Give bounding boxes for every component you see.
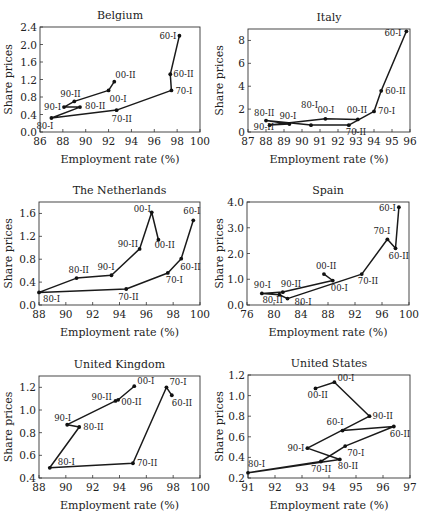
y-tick-label: 0 <box>238 126 245 138</box>
x-tick-label: 98 <box>170 135 183 147</box>
data-point-label: 00-II <box>347 105 367 115</box>
data-point-label: 70-I <box>166 275 183 285</box>
data-point-label: 80-II <box>254 108 274 118</box>
panel-italy: Italy Employment rate (%) Share prices 8… <box>211 0 422 172</box>
plot-frame <box>247 202 409 305</box>
data-point <box>107 89 111 93</box>
data-point <box>356 118 360 122</box>
data-point-label: 00-I <box>134 204 151 214</box>
chart-title: Spain <box>312 184 344 197</box>
chart-belgium: Belgium Employment rate (%) Share prices… <box>0 0 211 172</box>
data-point-label: 70-I <box>373 226 390 236</box>
y-tick-label: 0.0 <box>19 299 36 311</box>
data-point-label: 90-II <box>118 239 138 249</box>
data-point-label: 90-I <box>279 111 296 121</box>
y-tick-label: 1.0 <box>227 273 244 285</box>
panel-united-kingdom: United Kingdom Employment rate (%) Share… <box>0 343 211 515</box>
data-point-label: 00-II <box>154 240 174 250</box>
data-point-label: 00-I <box>110 94 127 104</box>
data-point <box>372 110 376 114</box>
data-point-label: 80-II <box>262 295 282 305</box>
data-point-label: 60-II <box>390 429 410 439</box>
x-tick-label: 98 <box>166 481 179 493</box>
x-tick-label: 80 <box>267 308 280 320</box>
data-point <box>110 273 114 277</box>
y-tick-label: 0.8 <box>20 91 37 103</box>
data-point <box>62 105 66 109</box>
x-axis-label: Employment rate (%) <box>60 326 179 339</box>
data-point <box>322 272 326 276</box>
data-point <box>48 466 52 470</box>
x-tick-label: 96 <box>376 481 390 493</box>
y-tick-label: 1.6 <box>19 207 36 219</box>
data-point-label: 70-II <box>118 292 138 302</box>
data-point-label: 70-I <box>169 377 186 387</box>
data-point <box>77 425 81 429</box>
x-tick-label: 93 <box>295 481 308 493</box>
data-point-label: 60-II <box>173 69 193 79</box>
x-tick-label: 88 <box>259 135 272 147</box>
plot-area: 868890929496981000.00.40.81.21.62.02.460… <box>20 21 210 147</box>
data-point-label: 00-I <box>331 283 348 293</box>
data-point <box>306 446 310 450</box>
y-axis-label: Share prices <box>2 391 15 462</box>
data-point <box>78 105 82 109</box>
chart-spain: Spain Employment rate (%) Share prices 7… <box>211 172 422 344</box>
data-point-label: 00-I <box>137 376 154 386</box>
x-tick-label: 98 <box>166 308 179 320</box>
data-point-label: 60-I <box>159 31 176 41</box>
x-axis-label: Employment rate (%) <box>60 153 179 166</box>
data-point-label: 70-II <box>358 276 378 286</box>
y-tick-label: 4.0 <box>227 196 244 208</box>
data-point <box>112 80 116 84</box>
x-tick-label: 88 <box>321 308 334 320</box>
x-tick-label: 90 <box>59 481 72 493</box>
y-tick-label: 1.2 <box>20 74 37 86</box>
panel-netherlands: The Netherlands Employment rate (%) Shar… <box>0 172 211 344</box>
x-tick-label: 96 <box>140 481 154 493</box>
y-tick-label: 0.4 <box>19 472 36 484</box>
y-tick-label: 0.4 <box>19 276 36 288</box>
y-tick-label: 0.4 <box>228 451 245 463</box>
y-tick-label: 4 <box>238 80 245 92</box>
plot-area: 8890929496981000.40.60.81.01.260-II70-I7… <box>19 376 210 493</box>
data-point <box>386 237 390 241</box>
data-point <box>65 423 69 427</box>
chart-title: Italy <box>316 11 342 24</box>
data-point-label: 00-I <box>317 105 334 115</box>
data-point <box>288 122 292 126</box>
data-point-label: 90-II <box>91 392 111 402</box>
x-axis-label: Employment rate (%) <box>60 499 179 512</box>
x-tick-label: 96 <box>140 308 154 320</box>
data-point-label: 90-I <box>54 413 71 423</box>
y-tick-label: 2.0 <box>227 248 244 260</box>
y-tick-label: 3.0 <box>227 222 244 234</box>
data-point-label: 00-II <box>316 261 336 271</box>
data-point-label: 70-I <box>347 448 364 458</box>
data-point <box>309 123 313 127</box>
x-tick-label: 92 <box>86 308 99 320</box>
data-point <box>75 276 79 280</box>
x-axis-label: Employment rate (%) <box>269 153 388 166</box>
y-tick-label: 0.0 <box>227 299 244 311</box>
y-tick-label: 1.2 <box>228 369 245 381</box>
x-tick-label: 95 <box>385 135 398 147</box>
y-axis-label: Share prices <box>213 218 226 289</box>
data-point <box>379 89 383 93</box>
y-tick-label: 1.2 <box>19 381 36 393</box>
y-axis-label: Share prices <box>2 44 15 115</box>
y-tick-label: 2.4 <box>20 21 37 33</box>
data-point-label: 90-II <box>60 89 80 99</box>
chart-title: United States <box>291 357 368 370</box>
data-point-label: 80-II <box>69 265 89 275</box>
plot-area: 878889909192939495960246860-I60-II70-I70… <box>238 28 417 147</box>
data-point-label: 80-II <box>83 422 103 432</box>
data-point <box>170 89 174 93</box>
data-point <box>368 414 372 418</box>
y-tick-label: 0.8 <box>19 253 36 265</box>
data-point <box>191 218 195 222</box>
x-tick-label: 91 <box>313 135 326 147</box>
x-tick-label: 94 <box>113 308 127 320</box>
data-point-label: 80-I <box>36 121 53 131</box>
data-point <box>50 116 54 120</box>
